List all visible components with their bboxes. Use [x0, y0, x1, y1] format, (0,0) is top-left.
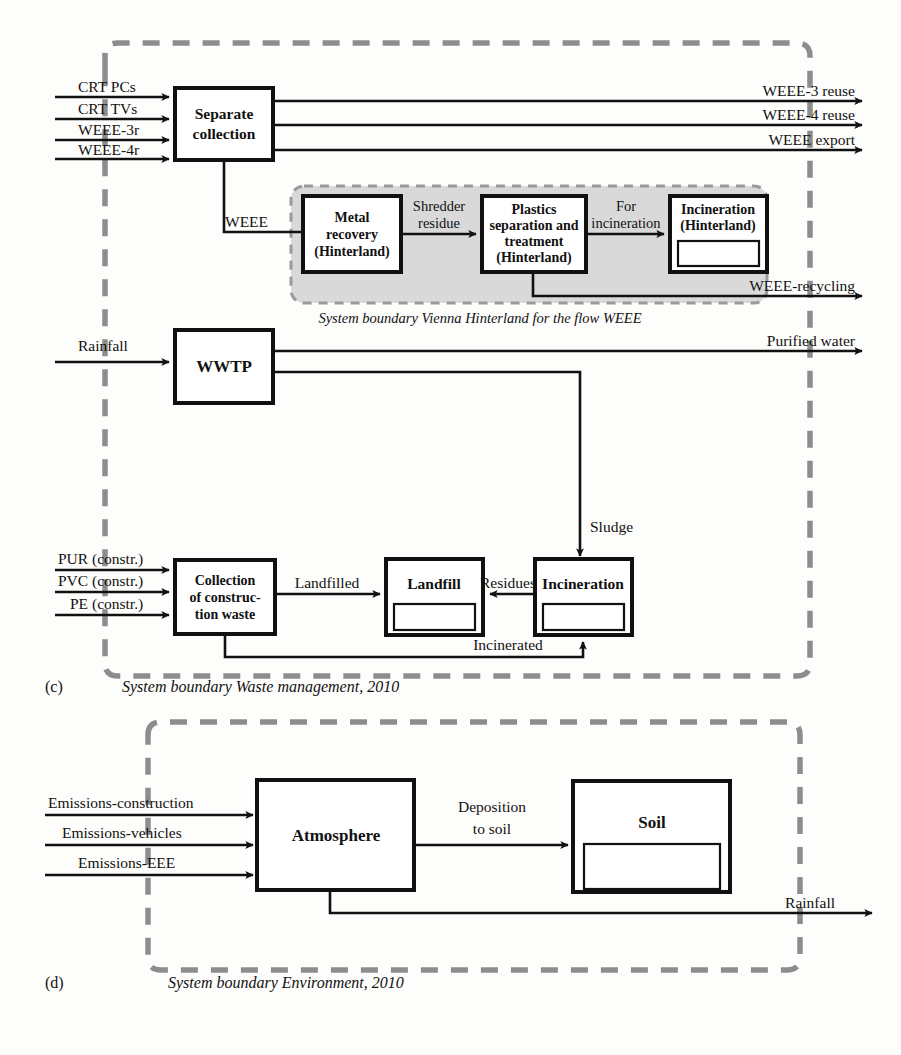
process-box-separate-collection[interactable]	[175, 88, 273, 160]
plastics-label-line2: separation and	[489, 218, 578, 233]
input-label-crt-pcs: CRT PCs	[78, 78, 136, 95]
metal-recovery-label-line2: recovery	[326, 227, 378, 242]
input-label-weee-4r: WEEE-4r	[78, 141, 140, 158]
panel-d-id: (d)	[45, 974, 64, 992]
panel-c-caption: System boundary Waste management, 2010	[122, 678, 399, 696]
output-label-weee-4-reuse: WEEE-4 reuse	[762, 106, 855, 123]
input-label-weee-3r: WEEE-3r	[78, 121, 140, 138]
output-label-rainfall: Rainfall	[785, 894, 835, 911]
landfill-label: Landfill	[407, 575, 461, 592]
flow-label-sludge: Sludge	[590, 518, 633, 535]
input-label-emissions-vehicles: Emissions-vehicles	[62, 824, 182, 841]
flow-label-shredder-residue-line2: residue	[418, 215, 460, 231]
flow-sludge	[273, 372, 580, 556]
flow-label-deposition-line2: to soil	[473, 820, 511, 837]
output-label-purified-water: Purified water	[767, 332, 856, 349]
input-label-emissions-construction: Emissions-construction	[48, 794, 194, 811]
plastics-label-line4: (Hinterland)	[496, 250, 572, 266]
collection-constr-label-line3: tion waste	[195, 607, 255, 622]
separate-collection-label-line1: Separate	[195, 105, 254, 122]
plastics-label-line3: treatment	[505, 234, 564, 249]
collection-constr-label-line1: Collection	[195, 573, 256, 588]
input-label-pvc: PVC (constr.)	[58, 572, 143, 590]
flow-label-incinerated: Incinerated	[473, 636, 543, 653]
input-label-emissions-eee: Emissions-EEE	[78, 854, 175, 871]
input-label-rainfall: Rainfall	[78, 337, 128, 354]
stock-indicator-incineration-hinterland	[678, 241, 759, 266]
stock-indicator-incineration	[543, 604, 624, 630]
input-label-pur: PUR (constr.)	[58, 550, 143, 568]
figure-canvas: CRT PCs CRT TVs WEEE-3r WEEE-4r Separate…	[0, 0, 901, 1055]
wwtp-label: WWTP	[196, 357, 252, 376]
output-label-weee-recycling: WEEE-recycling	[749, 277, 855, 294]
flow-label-for-incineration-line2: incineration	[591, 215, 661, 231]
metal-recovery-label-line3: (Hinterland)	[314, 244, 390, 260]
flow-label-landfilled: Landfilled	[295, 574, 360, 591]
flow-label-weee: WEEE	[225, 213, 268, 230]
stock-indicator-landfill	[394, 604, 475, 630]
input-label-crt-tvs: CRT TVs	[78, 100, 137, 117]
hinterland-boundary-caption: System boundary Vienna Hinterland for th…	[318, 310, 641, 326]
collection-constr-label-line2: of construc-	[189, 590, 260, 605]
incineration-hinterland-label-line1: Incineration	[681, 202, 755, 217]
flow-label-deposition-line1: Deposition	[458, 798, 526, 815]
atmosphere-label: Atmosphere	[292, 826, 381, 845]
incineration-hinterland-label-line2: (Hinterland)	[680, 218, 756, 234]
stock-indicator-soil	[584, 844, 720, 889]
soil-label: Soil	[638, 813, 666, 832]
input-label-pe: PE (constr.)	[70, 595, 143, 613]
separate-collection-label-line2: collection	[193, 125, 256, 142]
flow-label-shredder-residue-line1: Shredder	[413, 198, 466, 214]
plastics-label-line1: Plastics	[511, 202, 557, 217]
output-label-weee-3-reuse: WEEE-3 reuse	[762, 82, 855, 99]
panel-c-id: (c)	[45, 678, 63, 696]
flow-label-residues: Residues	[480, 574, 536, 591]
output-label-weee-export: WEEE export	[768, 131, 855, 148]
incineration-label: Incineration	[542, 575, 624, 592]
flow-diagram-svg: CRT PCs CRT TVs WEEE-3r WEEE-4r Separate…	[0, 0, 901, 1055]
flow-label-for-incineration-line1: For	[616, 198, 636, 214]
metal-recovery-label-line1: Metal	[335, 210, 370, 225]
panel-d-caption: System boundary Environment, 2010	[168, 974, 404, 992]
